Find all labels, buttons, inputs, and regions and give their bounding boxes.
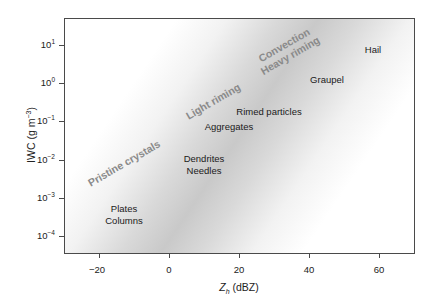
x-tick-label: 60 xyxy=(374,264,385,275)
y-tick xyxy=(59,83,64,84)
y-axis-title: IWC (g m−3) xyxy=(25,107,37,163)
x-tick xyxy=(169,253,170,258)
x-tick xyxy=(239,253,240,258)
y-tick-label: 10−2 xyxy=(37,153,55,165)
region-label-hail: Hail xyxy=(365,44,381,56)
x-axis-title: Zh (dBZ) xyxy=(219,281,259,295)
y-tick-label: 10−1 xyxy=(37,114,55,126)
x-tick-label: 0 xyxy=(166,264,171,275)
y-tick-label: 10−3 xyxy=(37,191,55,203)
y-tick xyxy=(59,121,64,122)
x-tick-label: 20 xyxy=(234,264,245,275)
x-tick xyxy=(379,253,380,258)
y-tick xyxy=(59,198,64,199)
x-tick-label: 40 xyxy=(304,264,315,275)
y-tick-label: 100 xyxy=(41,76,55,88)
region-label-aggregates: Aggregates xyxy=(205,121,254,133)
y-tick xyxy=(59,45,64,46)
region-label-rimed-particles: Rimed particles xyxy=(236,106,301,118)
y-tick xyxy=(59,236,64,237)
y-tick-label: 101 xyxy=(41,38,55,50)
x-tick xyxy=(99,253,100,258)
x-tick xyxy=(309,253,310,258)
y-tick-label: 10−4 xyxy=(37,229,55,241)
x-tick-label: −20 xyxy=(89,264,105,275)
region-label-dendrites-needles: DendritesNeedles xyxy=(184,153,225,177)
region-label-plates-columns: PlatesColumns xyxy=(105,203,143,227)
y-tick xyxy=(59,160,64,161)
region-label-graupel: Graupel xyxy=(310,74,344,86)
